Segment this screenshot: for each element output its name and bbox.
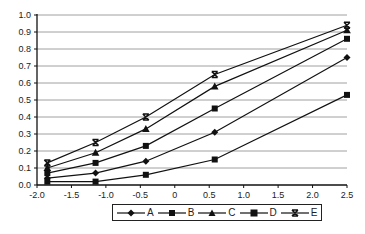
y-tick-label: 0.1 bbox=[18, 163, 31, 173]
x-tick-label: -1.0 bbox=[98, 190, 114, 200]
x-tick-label: 2.5 bbox=[341, 190, 354, 200]
y-tick-label: 0.0 bbox=[18, 180, 31, 190]
y-tick-label: 0.9 bbox=[18, 27, 31, 37]
legend-item-b: B bbox=[158, 207, 195, 218]
legend-label: D bbox=[270, 207, 277, 218]
y-tick-label: 0.5 bbox=[18, 95, 31, 105]
x-tick-label: -1.5 bbox=[64, 190, 80, 200]
diamond-icon bbox=[117, 208, 145, 218]
grid-lines bbox=[37, 15, 347, 168]
legend-item-d: D bbox=[240, 207, 277, 218]
series-e bbox=[44, 22, 350, 166]
series-c bbox=[44, 26, 351, 171]
axes bbox=[37, 14, 347, 185]
y-tick-label: 1.0 bbox=[18, 10, 31, 20]
triangle-icon bbox=[198, 208, 226, 218]
square-icon bbox=[240, 208, 268, 218]
series-b bbox=[44, 92, 350, 185]
x-tick-label: 1.0 bbox=[237, 190, 250, 200]
x-tick-label: -0.5 bbox=[133, 190, 149, 200]
legend: A B C D E bbox=[112, 204, 322, 221]
asterisk-icon bbox=[281, 208, 309, 218]
square-icon bbox=[158, 208, 186, 218]
line-chart: 0.00.10.20.30.40.50.60.70.80.91.0 -2.0-1… bbox=[0, 0, 365, 234]
legend-label: A bbox=[147, 207, 154, 218]
y-tick-label: 0.2 bbox=[18, 146, 31, 156]
y-tick-label: 0.7 bbox=[18, 61, 31, 71]
series-d bbox=[44, 36, 350, 176]
legend-label: E bbox=[311, 207, 318, 218]
y-tick-label: 0.4 bbox=[18, 112, 31, 122]
x-tick-label: -2.0 bbox=[29, 190, 45, 200]
legend-item-e: E bbox=[281, 207, 318, 218]
legend-item-c: C bbox=[198, 207, 235, 218]
data-series bbox=[44, 22, 351, 184]
legend-label: C bbox=[228, 207, 235, 218]
y-tick-label: 0.6 bbox=[18, 78, 31, 88]
x-tick-label: 1.5 bbox=[272, 190, 285, 200]
legend-item-a: A bbox=[117, 207, 154, 218]
y-tick-label: 0.8 bbox=[18, 44, 31, 54]
y-tick-label: 0.3 bbox=[18, 129, 31, 139]
x-tick-label: 0 bbox=[172, 190, 177, 200]
x-tick-label: 0.5 bbox=[203, 190, 216, 200]
legend-label: B bbox=[188, 207, 195, 218]
x-axis-ticks: -2.0-1.5-1.0-0.500.51.01.52.02.5 bbox=[29, 185, 353, 200]
x-tick-label: 2.0 bbox=[306, 190, 319, 200]
y-axis-ticks: 0.00.10.20.30.40.50.60.70.80.91.0 bbox=[18, 10, 37, 190]
